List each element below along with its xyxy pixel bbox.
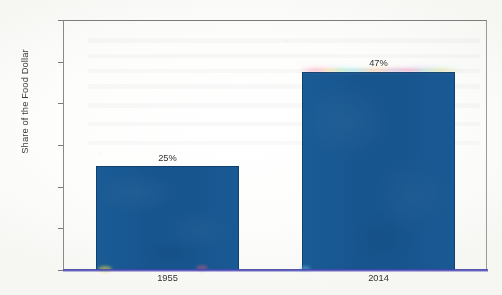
bar-2014[interactable] xyxy=(302,72,455,271)
y-tick-mark-50 xyxy=(58,62,63,63)
chart-screenshot: Share of the Food Dollar 60% 50% 40% 30%… xyxy=(0,0,502,295)
bar-value-1955: 25% xyxy=(96,153,239,163)
y-tick-mark-60 xyxy=(58,20,63,21)
y-tick-mark-40 xyxy=(58,103,63,104)
x-tick-label-1955: 1955 xyxy=(96,273,239,283)
bar-value-2014: 47% xyxy=(302,58,455,68)
y-axis-title: Share of the Food Dollar xyxy=(19,12,30,192)
x-tick-label-2014: 2014 xyxy=(302,273,455,283)
y-tick-mark-20 xyxy=(58,187,63,188)
y-tick-mark-30 xyxy=(58,145,63,146)
bar-1955[interactable] xyxy=(96,166,239,270)
zero-baseline-shadow xyxy=(63,271,488,272)
y-tick-mark-10 xyxy=(58,228,63,229)
